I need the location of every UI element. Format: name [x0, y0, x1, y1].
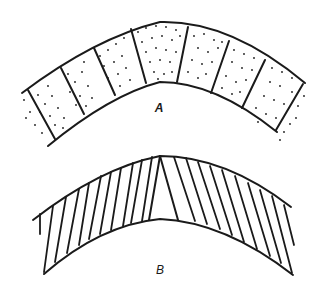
- panel-b-hatch: [40, 157, 294, 273]
- panel-b-label: B: [156, 264, 164, 276]
- panel-a-label: A: [155, 102, 164, 114]
- diagram-svg: [0, 0, 316, 298]
- panel-a-band: [22, 22, 305, 146]
- panel-b-band: [33, 156, 293, 275]
- diagram-canvas: A B: [0, 0, 316, 298]
